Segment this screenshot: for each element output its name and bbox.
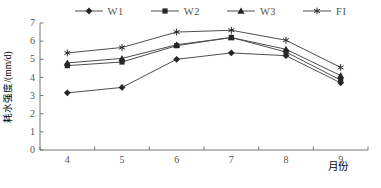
- data-series: [64, 27, 345, 96]
- series-line-W2: [67, 38, 340, 81]
- x-axis-ticks: 456789: [40, 147, 368, 166]
- y-axis-ticks: 01234567: [30, 17, 44, 155]
- marker-diamond-icon: [119, 84, 126, 91]
- y-tick-label: 4: [30, 72, 35, 83]
- x-tick-label: 9: [338, 154, 343, 165]
- x-tick-label: 4: [65, 154, 70, 165]
- marker-diamond-icon: [228, 50, 235, 57]
- x-tick-label: 5: [120, 154, 125, 165]
- x-tick-label: 8: [284, 154, 289, 165]
- marker-diamond-icon: [173, 56, 180, 63]
- line-chart-figure: W1W2W3FI 耗水强度/(mm/d) 月份 01234567 456789: [0, 0, 381, 188]
- y-tick-label: 0: [30, 144, 35, 155]
- y-axis-label: 耗水强度/(mm/d): [2, 51, 14, 122]
- y-tick-label: 5: [30, 53, 35, 64]
- y-tick-label: 2: [30, 108, 35, 119]
- marker-triangle-icon: [337, 72, 344, 78]
- y-tick-label: 6: [30, 35, 35, 46]
- x-tick-label: 6: [174, 154, 179, 165]
- series-line-FI: [67, 30, 340, 67]
- marker-diamond-icon: [64, 89, 71, 96]
- marker-asterisk-icon: [338, 64, 344, 71]
- y-tick-label: 1: [30, 126, 35, 137]
- y-tick-label: 3: [30, 90, 35, 101]
- y-tick-label: 7: [30, 17, 35, 28]
- plot-area: 耗水强度/(mm/d) 月份 01234567 456789: [0, 0, 381, 188]
- x-tick-label: 7: [229, 154, 234, 165]
